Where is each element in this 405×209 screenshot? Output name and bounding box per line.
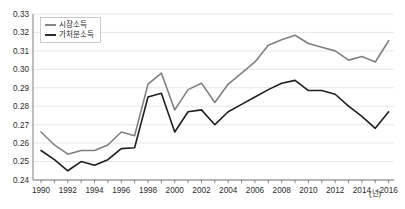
y-axis-tick-label: 0.25 bbox=[13, 157, 29, 166]
y-axis-tick-label: 0.30 bbox=[13, 65, 29, 74]
x-axis-tick-marks bbox=[41, 180, 389, 183]
y-axis-tick-label: 0.26 bbox=[13, 139, 29, 148]
x-axis-tick-label: 1996 bbox=[112, 186, 131, 195]
x-axis-tick-label: 2012 bbox=[326, 186, 345, 195]
legend-label-market-income: 시장소득 bbox=[59, 19, 87, 29]
x-axis-tick-label: 2002 bbox=[192, 186, 211, 195]
y-axis-tick-label: 0.31 bbox=[13, 47, 29, 56]
x-axis-tick-labels: 1990199219941996199820002002200420062008… bbox=[32, 186, 398, 195]
x-axis-tick-label: 1992 bbox=[59, 186, 78, 195]
x-axis-unit-label: (년) bbox=[369, 188, 382, 198]
x-axis-tick-label: 2010 bbox=[299, 186, 318, 195]
x-axis-tick-label: 1994 bbox=[85, 186, 104, 195]
x-axis-tick-label: 1990 bbox=[32, 186, 51, 195]
x-axis-tick-label: 2016 bbox=[380, 186, 399, 195]
y-axis-tick-label: 0.28 bbox=[13, 102, 29, 111]
chart-legend: 시장소득 가처분소득 bbox=[41, 18, 101, 43]
chart-canvas: 0.240.250.260.270.280.290.300.310.320.33… bbox=[0, 0, 405, 209]
y-axis-tick-label: 0.24 bbox=[13, 176, 29, 185]
income-inequality-line-chart: 0.240.250.260.270.280.290.300.310.320.33… bbox=[0, 0, 405, 209]
y-axis-tick-label: 0.32 bbox=[13, 28, 29, 37]
y-axis-tick-labels: 0.240.250.260.270.280.290.300.310.320.33 bbox=[13, 10, 29, 185]
y-axis-tick-label: 0.33 bbox=[13, 10, 29, 19]
data-series-group bbox=[41, 35, 389, 171]
x-axis-tick-label: 1998 bbox=[139, 186, 158, 195]
legend-label-disposable-income: 가처분소득 bbox=[59, 30, 94, 39]
x-axis-tick-label: 2000 bbox=[166, 186, 185, 195]
x-axis-tick-label: 2004 bbox=[219, 186, 238, 195]
x-axis-tick-label: 2006 bbox=[246, 186, 265, 195]
series-line-disposable-income bbox=[41, 80, 389, 170]
y-axis-tick-label: 0.29 bbox=[13, 84, 29, 93]
x-axis-tick-label: 2008 bbox=[273, 186, 292, 195]
y-axis-tick-label: 0.27 bbox=[13, 121, 29, 130]
